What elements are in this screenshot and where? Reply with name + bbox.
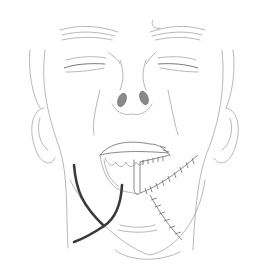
nose xyxy=(93,60,178,135)
ears xyxy=(29,50,238,163)
eyebrows xyxy=(60,20,205,64)
medical-face-illustration xyxy=(0,0,263,275)
suture-line-diagonal xyxy=(150,195,182,240)
head-outline xyxy=(44,50,223,259)
open-mouth-with-teeth xyxy=(100,142,170,194)
face-drawing xyxy=(0,0,263,275)
closed-eyes xyxy=(64,57,198,72)
neck-lines xyxy=(118,225,157,232)
thick-marker-lines xyxy=(74,165,122,242)
suture-line-horizontal xyxy=(140,146,198,194)
